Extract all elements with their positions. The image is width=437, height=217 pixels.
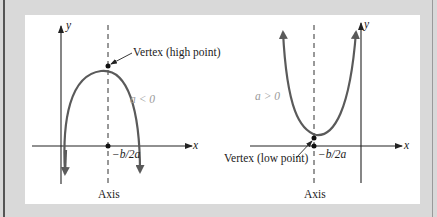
right-vertex-dot: [312, 136, 317, 141]
left-vertex-dot: [106, 64, 111, 69]
left-root-label: −b/2a: [112, 149, 140, 161]
left-parabola-start-arrow: [65, 150, 66, 174]
right-axis-label: Axis: [304, 189, 326, 201]
left-y-axis-label: y: [66, 20, 71, 32]
figure-frame: y x Vertex (high point) a < 0 −b/2a Axis…: [0, 0, 437, 217]
left-root-dot: [106, 144, 111, 149]
left-axis-label: Axis: [98, 189, 120, 201]
right-x-axis-label: x: [404, 140, 409, 152]
left-x-axis-label: x: [193, 140, 198, 152]
right-root-dot: [312, 144, 317, 149]
left-vertex-pointer: [111, 53, 132, 64]
right-vertex-label: Vertex (low point): [224, 153, 308, 165]
left-condition-label: a < 0: [130, 94, 155, 106]
right-parabola: [283, 32, 316, 135]
left-vertex-label: Vertex (high point): [133, 47, 221, 59]
right-condition-label: a > 0: [255, 91, 280, 103]
parabola-diagrams: [0, 0, 437, 217]
right-y-axis-label: y: [364, 19, 369, 31]
right-parabola-right-branch: [316, 32, 356, 135]
right-root-label: −b/2a: [318, 149, 346, 161]
